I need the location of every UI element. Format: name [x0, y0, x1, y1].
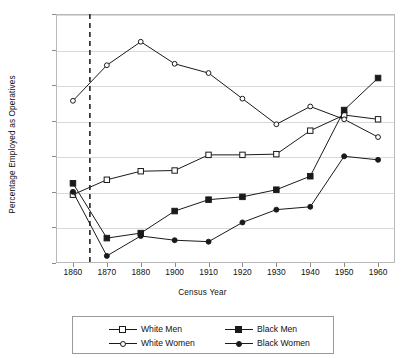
x-tick-mark [344, 263, 345, 267]
y-axis-title: Percentage Employed as Operatives [8, 45, 17, 245]
x-tick-mark [107, 263, 108, 267]
legend-swatch [109, 329, 137, 331]
series-line [73, 78, 378, 238]
legend-marker-open-square-icon [119, 326, 126, 333]
legend-label: White Men [141, 324, 182, 334]
data-point [206, 71, 211, 76]
legend-label: Black Men [257, 324, 297, 334]
data-point [138, 233, 143, 238]
data-point [375, 75, 381, 81]
data-point [308, 204, 313, 209]
data-point [104, 63, 109, 68]
data-point [206, 239, 211, 244]
data-point [104, 253, 109, 258]
data-point [71, 98, 76, 103]
data-point [138, 39, 143, 44]
x-axis-title: Census Year [0, 288, 405, 297]
data-point [341, 107, 347, 113]
data-point [274, 187, 280, 193]
x-tick-mark [378, 263, 379, 267]
y-tick-mark [52, 263, 56, 264]
data-point [240, 152, 245, 157]
data-point [240, 194, 246, 200]
data-point [206, 197, 212, 203]
legend-swatch [225, 329, 253, 331]
x-tick-mark [242, 263, 243, 267]
data-point [307, 173, 313, 179]
legend-label: Black Women [257, 338, 310, 348]
legend-marker-filled-circle-icon [236, 341, 242, 347]
legend-label: White Women [141, 338, 195, 348]
data-point [240, 96, 245, 101]
x-tick-mark [141, 263, 142, 267]
series-line [73, 42, 378, 137]
data-point [274, 207, 279, 212]
data-point [70, 189, 75, 194]
x-tick-mark [175, 263, 176, 267]
x-tick-mark [310, 263, 311, 267]
legend-marker-filled-square-icon [235, 326, 242, 333]
data-point [104, 235, 110, 241]
data-point [376, 135, 381, 140]
data-point [70, 181, 76, 187]
series-line [73, 115, 378, 195]
chart-container: Percentage Employed as Operatives 051015… [0, 0, 405, 358]
data-point [172, 61, 177, 66]
data-point [308, 104, 313, 109]
x-tick-label: 1960 [355, 267, 401, 277]
series-line [73, 156, 378, 256]
data-point [172, 208, 178, 214]
data-point [138, 169, 143, 174]
series-white-women [71, 39, 381, 139]
data-point [206, 152, 211, 157]
data-point [172, 238, 177, 243]
data-point [240, 220, 245, 225]
data-point [274, 122, 279, 127]
data-point [172, 168, 177, 173]
data-point [342, 154, 347, 159]
series-lines-layer [56, 14, 395, 263]
series-black-men [70, 75, 381, 241]
x-tick-mark [209, 263, 210, 267]
x-tick-mark [276, 263, 277, 267]
data-point [308, 128, 313, 133]
data-point [376, 157, 381, 162]
series-white-men [70, 112, 381, 197]
legend-swatch [225, 343, 253, 345]
legend-marker-open-circle-icon [120, 341, 126, 347]
data-point [375, 117, 380, 122]
data-point [342, 117, 347, 122]
x-tick-mark [73, 263, 74, 267]
legend-swatch [109, 343, 137, 345]
data-point [274, 151, 279, 156]
series-black-women [70, 154, 380, 259]
data-point [104, 177, 109, 182]
chart-legend: White MenBlack MenWhite WomenBlack Women [72, 316, 334, 354]
